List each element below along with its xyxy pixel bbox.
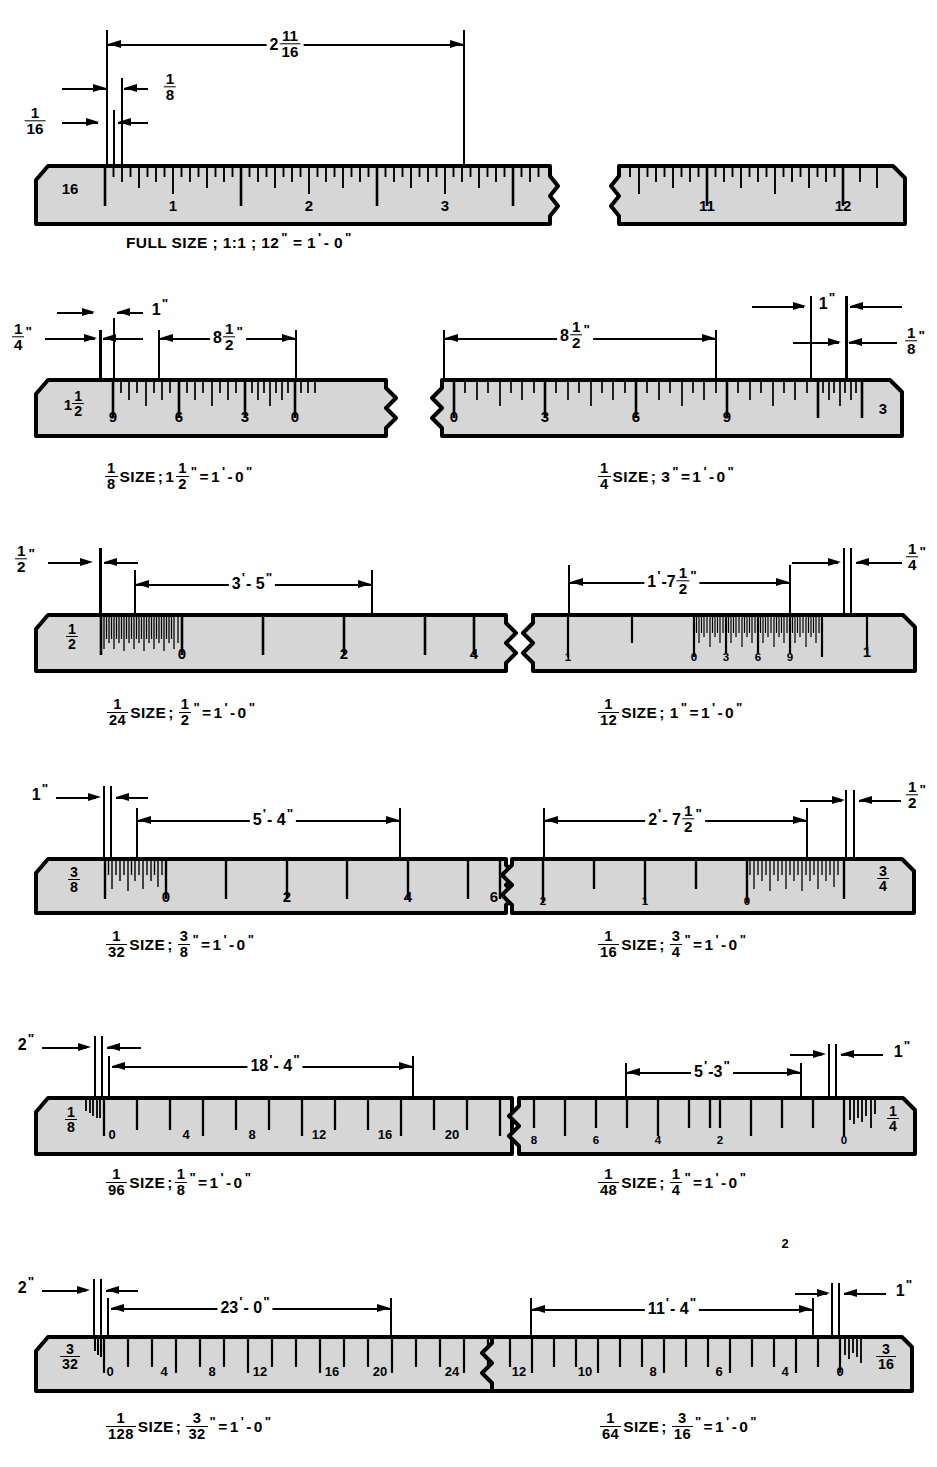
ruler-tick-label: 4 [655,1134,661,1146]
arrowhead-right [445,334,458,342]
ruler-end-label: 1 1 2 [64,390,84,420]
fraction: 1 8 [905,325,917,356]
ruler-tick-label: 24 [445,1364,459,1379]
arrowhead-right [108,40,121,48]
ruler-tick-label: 0 [162,888,170,905]
fraction: 1 4 [12,321,24,352]
arrowhead-right [844,1289,857,1297]
fraction: 12 [179,697,192,727]
ruler-tick-label: 1 [642,895,648,907]
ruler-tick-label: 0 [291,408,299,425]
arrowhead-right [787,1068,800,1076]
ruler-tick-label: 9 [787,651,793,663]
fraction: 3 32 [60,1342,80,1372]
arrowhead-right [799,1305,812,1313]
witness-line [399,808,401,858]
ruler-tick-label: 6 [593,1134,599,1146]
witness-line [113,110,115,170]
arrowhead-right [386,816,399,824]
ruler-end-label: 3 16 [876,1343,896,1373]
ruler-tick-label: 3 [723,651,729,663]
ruler-tick-label: 20 [373,1364,387,1379]
fraction: 1 16 [25,105,46,136]
ruler-one-onetwentyeighth-size: 3 32 0 4 8 12 16 20 24 28 [34,1335,524,1395]
fraction: 1 2 [223,321,235,352]
arrowhead-right [793,302,806,310]
fraction: 1 4 [598,461,611,491]
dimension-5ft-3in: 5'-3" [691,1063,733,1081]
arrowhead-right [828,338,841,346]
fraction: 1 32 [106,929,127,959]
dimension-8-1-2-inch: 8 1 2 " [210,322,246,353]
arrowhead-right [116,793,129,801]
arrowhead-right [828,558,841,566]
fraction: 18 [175,1167,188,1197]
caption-one-quarter-size: 1 4 SIZE; 3" = 1'-0" [598,462,734,492]
arrowhead-right [82,308,95,316]
arrowhead-right [118,118,131,126]
dimension-2ft-7-1-2in: 2'- 7 1 2 " [645,804,705,835]
ruler-tick-label: 3 [241,408,249,425]
caption-one-twentyfourth-size: 1 24 SIZE; 12 " = 1'-0" [107,698,255,728]
fraction: 1 2 [66,622,78,652]
arrowhead-right [627,1068,640,1076]
fraction: 1 16 [598,929,619,959]
fraction: 1 128 [106,1411,136,1441]
ruler-tick-label: 20 [445,1127,459,1142]
ruler-tick-label: 11 [699,197,715,214]
fraction: 1 2 [72,389,84,419]
fraction: 3 8 [68,865,80,895]
dimension-1-inch: 1" [893,1282,915,1300]
arrowhead-right [570,578,583,586]
ruler-tick-label: 6 [632,408,640,425]
arrowhead-right [124,84,137,92]
ruler-tick-label: 3 [541,408,549,425]
ruler-end-label: 1 4 [887,1105,899,1135]
arrowhead-right [103,334,116,342]
ruler-one-twelfth-size: 1 0 3 6 9 1 [519,613,919,675]
ruler-tick-label: 0 [691,651,697,663]
ruler-one-sixtyfourth-size: 12 10 8 6 4 2 0 3 16 [478,1335,918,1395]
arrowhead-right [107,1043,120,1051]
ruler-tick-label: 0 [841,1134,847,1146]
arrowhead-right [86,118,99,126]
dimension-5ft-4in: 5'- 4" [250,811,296,829]
caption-one-eighth-size: 1 8 SIZE; 1 12 " = 1'-0" [105,462,253,492]
dimension-8-1-2-inch: 8 1 2 " [557,320,593,351]
witness-line [101,1036,103,1104]
ruler-tick-label: 8 [248,1127,255,1142]
fraction: 12 [176,461,189,491]
ruler-end-label: 1 2 [66,623,78,653]
arrowhead-right [112,1062,125,1070]
arrowhead-right [532,1305,545,1313]
arrowhead-right [93,84,106,92]
fraction: 1 8 [105,461,118,491]
ruler-end-label: 3 [879,400,887,417]
fraction: 34 [670,929,683,959]
fraction: 1 2 [906,779,918,810]
arrowhead-right [793,816,806,824]
dimension-23ft-0in: 23'- 0" [217,1299,272,1317]
ruler-tick-label: 0 [836,1364,843,1379]
caption-one-sixtyfourth-size: 1 64 SIZE; 316 " = 1'-0" [600,1412,757,1442]
caption-one-twelfth-size: 1 12 SIZE; 1"= 1'-0" [598,698,743,728]
arrowhead-right [80,558,93,566]
arrowhead-right [88,793,101,801]
witness-line [93,1279,95,1341]
dimension-2-inch: 2" [15,1036,37,1054]
dim-whole: 2 [270,36,279,54]
dimension-1-inch: 1" [29,786,51,804]
dimension-1-8: 1 8 [161,72,179,103]
witness-line [94,1036,96,1104]
arrowhead-right [358,580,371,588]
dimension-1-2-inch: 1 2 " [903,780,929,811]
ruler-tick-label: 6 [715,1364,722,1379]
ruler-tick-label: 4 [182,1127,189,1142]
ruler-tick-label: 0 [108,1127,115,1142]
fraction: 1 8 [65,1105,77,1135]
dimension-1-8-inch: 1 8 " [902,326,928,357]
arrowhead-right [78,1043,91,1051]
witness-line [853,790,855,860]
ruler-tick-label: 2 [781,1236,788,1251]
arrowhead-right [856,558,869,566]
